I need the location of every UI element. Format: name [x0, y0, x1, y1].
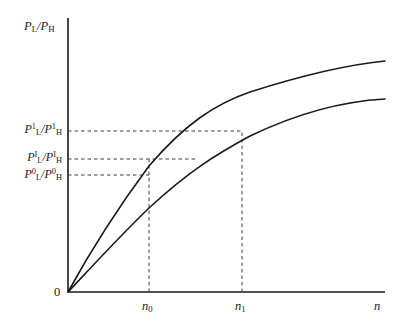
curve-lower — [68, 99, 385, 292]
x-tick-n1-subscript: 1 — [241, 304, 245, 314]
y-tick-label-p0: P0L/P0H — [0, 168, 62, 183]
y-tick-label-pI: PIL/PIH — [0, 151, 62, 166]
curve-upper — [68, 61, 385, 292]
x-tick-label-n1: n1 — [235, 300, 246, 314]
origin-label: 0 — [54, 286, 60, 299]
x-tick-n0-subscript: 0 — [148, 304, 152, 314]
chart-figure: PL/PH P1L/P1H PIL/PIH P0L/P0H 0 n0 n1 n — [0, 0, 394, 327]
x-axis-title: n — [374, 300, 380, 313]
y-axis-title: PL/PH — [24, 20, 54, 34]
x-tick-label-n0: n0 — [142, 300, 153, 314]
y-tick-label-p1: P1L/P1H — [0, 123, 62, 138]
